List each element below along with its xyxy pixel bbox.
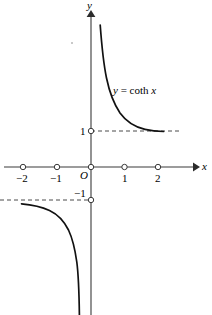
curve-coth-positive-branch [100, 25, 163, 132]
y-axis-arrow-icon [87, 10, 96, 17]
y-tick-label-1: 1 [80, 126, 86, 137]
x-tick-marker-1 [122, 164, 127, 169]
x-tick-label-1: 1 [122, 173, 128, 184]
curve-coth-negative-branch [22, 204, 80, 315]
curve-equation-label: y = coth x [113, 85, 156, 96]
origin-label: O [80, 170, 88, 181]
hyperbolic-cotangent-graph-figure: y x O −2 −1 1 2 1 −1 y = coth x [0, 0, 212, 315]
x-tick-marker-2 [155, 164, 160, 169]
x-tick-label-minus1: −1 [50, 173, 62, 184]
equation-lhs: y [113, 84, 118, 96]
x-tick-label-minus2: −2 [16, 173, 28, 184]
dust-speck-icon [71, 42, 73, 44]
y-tick-marker-1 [88, 128, 93, 133]
x-axis-arrow-icon [193, 163, 200, 172]
equation-argument: x [151, 84, 156, 96]
equation-function: coth [130, 84, 149, 96]
x-tick-marker-minus2 [20, 164, 25, 169]
y-tick-marker-minus1 [88, 197, 93, 202]
origin-marker [88, 164, 93, 169]
y-axis-label: y [87, 0, 92, 11]
x-tick-marker-minus1 [54, 164, 59, 169]
x-axis-label: x [202, 161, 207, 172]
y-tick-label-minus1: −1 [74, 188, 86, 199]
equation-operator: = [121, 84, 127, 96]
plot-canvas [0, 0, 212, 315]
x-tick-label-2: 2 [155, 173, 161, 184]
